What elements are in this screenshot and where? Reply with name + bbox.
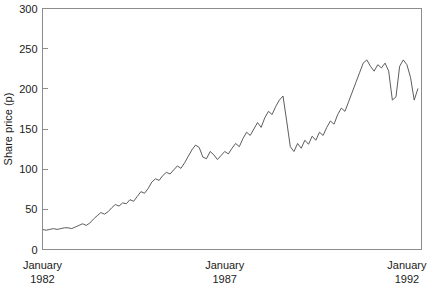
x-tick-label-year: 1987 [212,273,236,285]
y-tick-label: 250 [19,43,37,55]
axis-labels-layer: 050100150200250300January1982January1987… [2,3,427,285]
x-tick-label-month: January [23,259,63,271]
share-price-line-chart: 050100150200250300January1982January1987… [0,0,432,295]
y-tick-label: 300 [19,3,37,15]
x-tick-label-year: 1992 [395,273,419,285]
x-tick-label-month: January [387,259,427,271]
chart-figure: 050100150200250300January1982January1987… [0,0,432,295]
y-tick-label: 50 [25,203,37,215]
y-axis-title: Share price (p) [2,93,14,166]
x-tick-label-month: January [205,259,245,271]
y-tick-label: 0 [31,244,37,256]
y-tick-label: 150 [19,123,37,135]
series-line-share-price [43,60,418,230]
y-tick-label: 200 [19,83,37,95]
y-tick-label: 100 [19,163,37,175]
plot-area [43,60,418,230]
x-tick-label-year: 1982 [30,273,54,285]
